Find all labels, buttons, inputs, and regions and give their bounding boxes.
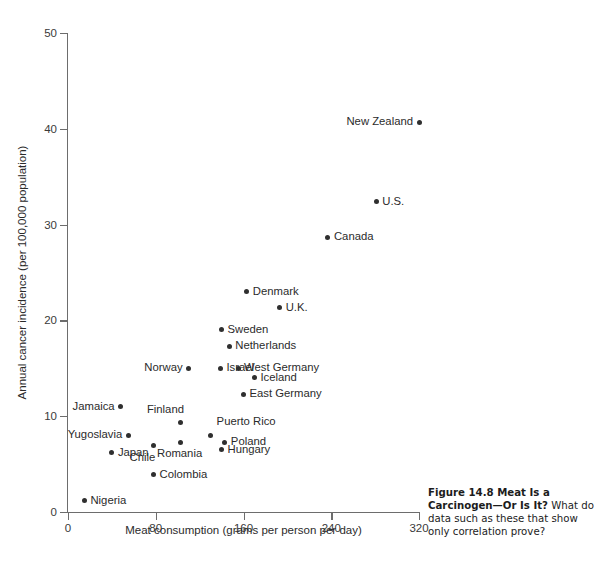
y-tick-label: 10 [44,410,57,422]
data-point-label: Netherlands [235,341,296,352]
data-point-label: Norway [144,363,182,374]
x-axis-title: Meat consumption (grams per person per d… [68,524,419,536]
data-point-label: Nigeria [90,495,126,506]
data-point [417,120,422,125]
data-point [219,327,224,332]
x-tick-mark [156,512,157,520]
y-tick-label: 50 [44,27,57,39]
data-point [151,443,156,448]
y-tick-mark [60,416,68,417]
data-point [218,366,223,371]
data-point-label: Denmark [253,286,299,297]
data-point-label: Iceland [260,372,296,383]
figure-scatter-plot: 01020304050 080160240320 New ZealandU.S.… [0,0,599,569]
data-point [109,450,114,455]
data-point-label: Sweden [228,324,269,335]
y-tick-mark [60,33,68,34]
data-point [374,199,379,204]
data-point [227,344,232,349]
data-point [219,447,224,452]
data-point-label: Romania [157,448,202,459]
data-point [208,433,213,438]
data-point [325,235,330,240]
y-tick-label: 30 [44,219,57,231]
data-point [252,375,257,380]
data-point [82,498,87,503]
data-point-label: Finland [147,404,184,415]
data-point-label: Canada [334,231,374,242]
figure-caption: Figure 14.8 Meat Is a Carcinogen—Or Is I… [428,487,594,539]
data-point-label: Puerto Rico [217,417,276,428]
data-point-label: U.K. [286,302,308,313]
figure-caption-bold: Figure 14.8 Meat Is a Carcinogen—Or Is I… [428,487,550,511]
data-point-label: Hungary [228,444,271,455]
data-point [244,289,249,294]
data-point-label: East Germany [250,389,322,400]
data-point [186,366,191,371]
data-point [126,433,131,438]
data-point [178,440,183,445]
data-point [241,392,246,397]
data-point-label: New Zealand [346,116,413,127]
x-tick-mark [68,512,69,520]
data-point-label: Yugoslavia [68,430,123,441]
x-tick-mark [419,512,420,520]
y-tick-mark [60,225,68,226]
y-tick-label: 20 [44,314,57,326]
data-point-label: Japan [118,447,149,458]
y-tick-mark [60,129,68,130]
data-point [151,472,156,477]
plot-area: 01020304050 080160240320 New ZealandU.S.… [68,33,419,512]
data-point [178,420,183,425]
data-point [277,305,282,310]
data-point-label: Colombia [160,469,208,480]
data-point [236,366,241,371]
data-point [118,404,123,409]
y-tick-mark [60,320,68,321]
data-point-label: U.S. [382,196,404,207]
y-tick-label: 0 [51,506,57,518]
y-tick-mark [60,512,68,513]
x-tick-mark [244,512,245,520]
y-tick-label: 40 [44,123,57,135]
y-axis-title: Annual cancer incidence (per 100,000 pop… [14,33,30,512]
x-tick-mark [331,512,332,520]
data-point-label: Jamaica [73,401,115,412]
